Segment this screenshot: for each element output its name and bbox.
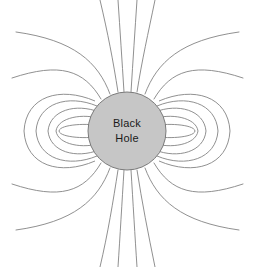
- open-field-line-upper-right-5: [145, 32, 239, 94]
- open-field-line-upper-2: [118, 0, 124, 92]
- closed-loop-right-1: [159, 94, 230, 168]
- open-field-line-lower-4: [137, 170, 155, 267]
- black-hole-label-line2: Hole: [115, 132, 138, 144]
- open-field-line-upper-3: [131, 0, 137, 92]
- open-field-line-upper-left-5: [16, 32, 110, 94]
- open-field-line-lower-left-5: [16, 168, 110, 230]
- open-field-line-lower-right-5: [145, 168, 239, 230]
- closed-loop-left-1: [24, 94, 95, 168]
- black-hole-field-diagram: Black Hole: [0, 0, 254, 267]
- open-field-line-lower-3: [131, 170, 137, 267]
- field-line-canvas: Black Hole: [0, 0, 254, 267]
- open-field-line-lower-2: [118, 170, 124, 267]
- black-hole-label-line1: Black: [113, 117, 141, 129]
- open-field-line-lower-1: [100, 170, 118, 267]
